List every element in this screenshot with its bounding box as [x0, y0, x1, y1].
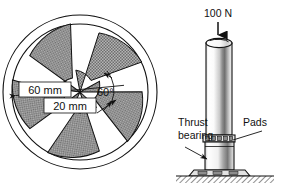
pad-angle-label: 60° [97, 86, 114, 98]
pad-segment [230, 137, 233, 141]
ground-hatching [176, 176, 274, 183]
thrust-bearing-label-line2: bearing [178, 129, 213, 141]
pads-label: Pads [243, 116, 267, 128]
flange-detail [198, 171, 207, 174]
shaft-body [206, 43, 232, 135]
load-label: 100 N [204, 7, 232, 19]
base-flange-bolt-details [198, 171, 238, 174]
thrust-bearing-label-line1: Thrust [178, 116, 208, 128]
inner-diameter-label: 20 mm [53, 100, 87, 112]
outer-diameter-label: 60 mm [28, 84, 62, 96]
flange-detail [229, 171, 238, 174]
flange-detail [213, 171, 222, 174]
pad-segment [224, 137, 228, 141]
pad-segment [218, 137, 222, 141]
inner-diameter-label-group: 20 mm [44, 98, 96, 113]
outer-diameter-label-group: 60 mm [19, 82, 71, 97]
engineering-figure: 60 mm 20 mm 60° 100 N [0, 0, 281, 186]
